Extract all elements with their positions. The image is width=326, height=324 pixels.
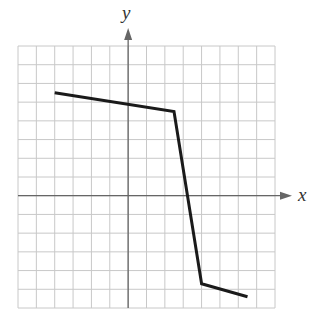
- y-axis-arrow-icon: [124, 28, 132, 40]
- grid: [18, 46, 275, 308]
- x-axis-arrow-icon: [280, 192, 292, 200]
- graph: x y: [0, 0, 326, 324]
- y-axis-label: y: [120, 2, 131, 23]
- x-axis-label: x: [297, 184, 307, 205]
- axes: [18, 28, 292, 308]
- function-graph-line: [55, 93, 248, 297]
